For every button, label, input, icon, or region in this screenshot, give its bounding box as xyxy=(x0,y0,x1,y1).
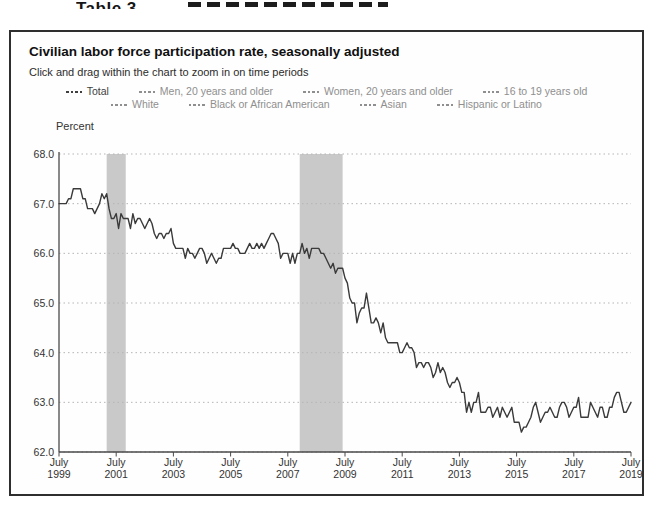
x-tick-label-2015: July2015 xyxy=(495,456,539,480)
x-tick-label-2005: July2005 xyxy=(209,456,253,480)
y-tick-label-67.0: 67.0 xyxy=(24,198,54,210)
cropped-table-caption-text: Table 3 xyxy=(76,0,137,9)
x-tick-year: 2013 xyxy=(437,468,481,480)
x-tick-year: 2001 xyxy=(94,468,138,480)
x-tick-year: 2009 xyxy=(323,468,367,480)
x-tick-label-2009: July2009 xyxy=(323,456,367,480)
chart-plot-area[interactable] xyxy=(11,32,642,494)
cropped-table-caption-fragment xyxy=(188,2,388,7)
x-tick-label-1999: July1999 xyxy=(37,456,81,480)
x-tick-label-2007: July2007 xyxy=(266,456,310,480)
x-tick-month: July xyxy=(151,456,195,468)
x-tick-year: 2015 xyxy=(495,468,539,480)
y-tick-label-65.0: 65.0 xyxy=(24,297,54,309)
x-tick-label-2013: July2013 xyxy=(437,456,481,480)
x-tick-month: July xyxy=(323,456,367,468)
cropped-table-caption: Table 3 xyxy=(76,0,406,9)
x-tick-year: 2019 xyxy=(609,468,650,480)
x-tick-year: 2011 xyxy=(380,468,424,480)
x-tick-year: 2007 xyxy=(266,468,310,480)
page: { "page": { "cropped_caption": "Table 3"… xyxy=(0,0,650,506)
x-tick-month: July xyxy=(266,456,310,468)
chart-panel: Civilian labor force participation rate,… xyxy=(9,30,644,496)
x-tick-year: 2005 xyxy=(209,468,253,480)
x-tick-year: 2017 xyxy=(552,468,596,480)
y-tick-label-66.0: 66.0 xyxy=(24,247,54,259)
y-tick-label-64.0: 64.0 xyxy=(24,347,54,359)
x-tick-month: July xyxy=(437,456,481,468)
x-tick-label-2003: July2003 xyxy=(151,456,195,480)
y-tick-label-68.0: 68.0 xyxy=(24,148,54,160)
series-line-total xyxy=(59,189,631,432)
x-tick-month: July xyxy=(209,456,253,468)
x-tick-year: 1999 xyxy=(37,468,81,480)
x-tick-month: July xyxy=(37,456,81,468)
x-tick-month: July xyxy=(552,456,596,468)
x-tick-month: July xyxy=(609,456,650,468)
x-tick-label-2011: July2011 xyxy=(380,456,424,480)
x-tick-label-2019: July2019 xyxy=(609,456,650,480)
x-tick-month: July xyxy=(380,456,424,468)
x-tick-label-2017: July2017 xyxy=(552,456,596,480)
y-tick-label-63.0: 63.0 xyxy=(24,396,54,408)
x-tick-month: July xyxy=(94,456,138,468)
x-tick-month: July xyxy=(495,456,539,468)
x-tick-year: 2003 xyxy=(151,468,195,480)
x-tick-label-2001: July2001 xyxy=(94,456,138,480)
